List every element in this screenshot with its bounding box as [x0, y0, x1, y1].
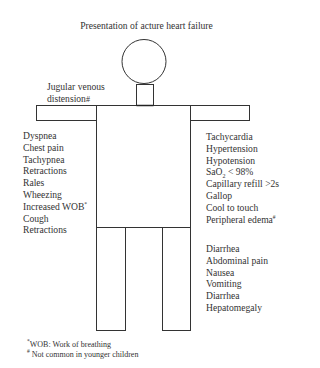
- abdominal-symptoms-list: Diarrhea Abdominal pain Nausea Vomiting …: [206, 243, 268, 314]
- list-item: Gallop: [206, 190, 279, 202]
- neck-shape: [137, 85, 154, 106]
- list-item: Peripheral edema#: [206, 214, 279, 226]
- list-item: Hepatomegaly: [206, 302, 268, 314]
- right-arm-shape: [191, 106, 250, 121]
- list-item: Retractions: [23, 165, 87, 177]
- jvd-marker: #: [86, 95, 90, 104]
- right-leg-shape: [163, 228, 191, 331]
- list-item: Wheezing: [23, 189, 87, 201]
- chest-symptoms-list: Dyspnea Chest pain Tachypnea Retractions…: [23, 130, 87, 236]
- footnotes: *WOB: Work of breathing # Not common in …: [27, 340, 138, 360]
- list-item: SaO2 < 98%: [206, 166, 279, 178]
- list-item: Chest pain: [23, 142, 87, 154]
- list-item: Tachycardia: [206, 131, 279, 143]
- list-item: Dyspnea: [23, 130, 87, 142]
- list-item: Diarrhea: [206, 243, 268, 255]
- list-item: Retractions: [23, 224, 87, 236]
- list-item: Capillary refill >2s: [206, 178, 279, 190]
- footnote-marker: *: [84, 201, 87, 207]
- footnote-marker: #: [273, 213, 276, 219]
- head-shape: [122, 40, 166, 84]
- torso-shape: [97, 106, 191, 228]
- list-item: Rales: [23, 177, 87, 189]
- footnote-wob: *WOB: Work of breathing: [27, 340, 138, 350]
- list-item: Abdominal pain: [206, 255, 268, 267]
- list-item: Vomiting: [206, 278, 268, 290]
- list-item: Tachypnea: [23, 154, 87, 166]
- jvd-label: Jugular venous distension#: [47, 81, 105, 106]
- list-item: Increased WOB*: [23, 201, 87, 213]
- cardiac-signs-list: Tachycardia Hypertension Hypotension SaO…: [206, 131, 279, 225]
- list-item: Hypertension: [206, 143, 279, 155]
- list-item: Cool to touch: [206, 202, 279, 214]
- jvd-label-line2: distension: [47, 93, 86, 104]
- footnote-younger-children: # Not common in younger children: [27, 350, 138, 360]
- list-item: Hypotension: [206, 155, 279, 167]
- jvd-label-line1: Jugular venous: [47, 81, 105, 93]
- left-leg-shape: [97, 228, 126, 331]
- list-item: Nausea: [206, 267, 268, 279]
- list-item: Cough: [23, 213, 87, 225]
- left-arm-shape: [37, 106, 97, 121]
- list-item: Diarrhea: [206, 290, 268, 302]
